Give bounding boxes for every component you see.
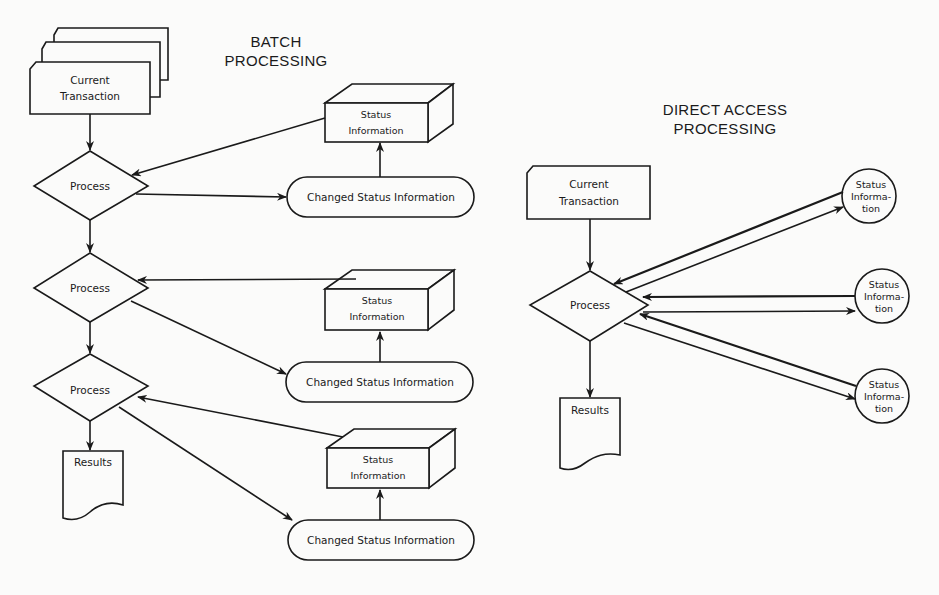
svg-text:Informa-: Informa- (851, 191, 891, 202)
batch-status-info-1: Status Information (325, 84, 453, 142)
batch-process-2: Process (34, 253, 148, 322)
batch-process-1: Process (34, 151, 148, 220)
svg-text:tion: tion (862, 203, 880, 214)
svg-text:Information: Information (351, 470, 406, 481)
svg-text:Changed Status Information: Changed Status Information (306, 376, 454, 388)
direct-status-info-1: Status Informa- tion (842, 169, 896, 223)
svg-text:Status: Status (869, 379, 899, 390)
batch-changed-status-2: Changed Status Information (286, 362, 473, 402)
svg-text:Changed Status Information: Changed Status Information (307, 534, 455, 546)
read-status-arrow (643, 296, 855, 297)
svg-text:tion: tion (875, 303, 893, 314)
svg-text:Information: Information (350, 311, 405, 322)
direct-current-transaction: Current Transaction (527, 166, 650, 219)
svg-text:Process: Process (70, 180, 110, 192)
write-changed-arrow (136, 194, 286, 197)
svg-text:Process: Process (70, 384, 110, 396)
svg-text:BATCH: BATCH (250, 33, 301, 50)
svg-text:Status: Status (869, 279, 899, 290)
svg-text:tion: tion (875, 403, 893, 414)
read-status-arrow (138, 397, 343, 437)
svg-text:Status: Status (363, 454, 393, 465)
write-changed-arrow (131, 301, 286, 374)
write-status-arrow (626, 207, 843, 292)
svg-text:Transaction: Transaction (558, 195, 619, 207)
svg-text:Informa-: Informa- (864, 291, 904, 302)
svg-text:DIRECT ACCESS: DIRECT ACCESS (663, 101, 788, 118)
svg-text:Transaction: Transaction (59, 90, 120, 102)
svg-text:Results: Results (571, 404, 609, 416)
svg-text:Process: Process (70, 282, 110, 294)
read-status-arrow (132, 118, 325, 175)
svg-text:Status: Status (856, 179, 886, 190)
read-status-arrow (640, 314, 856, 386)
svg-text:Current: Current (70, 74, 109, 86)
svg-text:Informa-: Informa- (864, 391, 904, 402)
svg-text:Status: Status (361, 109, 391, 120)
direct-title: DIRECT ACCESS PROCESSING (663, 101, 788, 137)
write-status-arrow (624, 323, 855, 399)
batch-results-document: Results (63, 451, 123, 519)
direct-status-info-3: Status Informa- tion (855, 369, 909, 423)
batch-changed-status-1: Changed Status Information (287, 177, 474, 217)
svg-text:Status: Status (362, 295, 392, 306)
diagram-canvas: BATCH PROCESSING Current Transaction Pro… (0, 0, 939, 595)
direct-process: Process (530, 271, 648, 341)
read-status-arrow (138, 279, 356, 280)
direct-status-info-2: Status Informa- tion (855, 269, 909, 323)
svg-text:Information: Information (349, 125, 404, 136)
transaction-card (30, 62, 150, 114)
svg-text:Results: Results (74, 456, 112, 468)
batch-status-info-3: Status Information (327, 429, 455, 488)
svg-text:Changed Status Information: Changed Status Information (307, 191, 455, 203)
batch-process-3: Process (34, 354, 148, 421)
direct-results-document: Results (560, 398, 620, 470)
svg-text:PROCESSING: PROCESSING (224, 52, 327, 69)
svg-text:PROCESSING: PROCESSING (673, 120, 776, 137)
batch-changed-status-3: Changed Status Information (288, 520, 474, 560)
write-status-arrow (643, 311, 855, 312)
svg-text:Process: Process (570, 299, 610, 311)
batch-current-transaction-stack: Current Transaction (30, 28, 168, 114)
batch-title: BATCH PROCESSING (224, 33, 327, 69)
write-changed-arrow (119, 407, 292, 520)
svg-text:Current: Current (569, 178, 608, 190)
